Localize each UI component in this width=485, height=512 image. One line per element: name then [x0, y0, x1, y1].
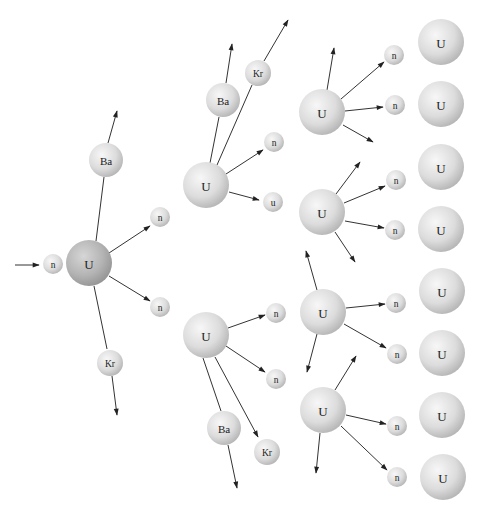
arrow	[341, 426, 387, 470]
krypton-label: Kr	[253, 69, 264, 79]
uranium-label: U	[436, 36, 446, 51]
arrow	[345, 221, 384, 228]
uranium-label: U	[436, 223, 446, 238]
neutron-label: u	[271, 198, 276, 208]
neutron-label: n	[274, 375, 279, 385]
uranium-sphere: U	[300, 387, 346, 433]
uranium-sphere: U	[418, 81, 464, 127]
uranium-sphere: U	[300, 289, 346, 335]
arrow	[109, 226, 150, 253]
krypton-label: Kr	[105, 359, 116, 369]
barium-sphere: Ba	[89, 143, 123, 177]
uranium-label: U	[318, 404, 328, 419]
particles: nUBaKrnnUBaKrnuUnnBaKrUUUUnnnnnnnnUUUUUU…	[43, 19, 466, 500]
neutron-sphere: n	[387, 416, 407, 436]
arrow	[226, 150, 263, 174]
barium-label: Ba	[100, 155, 112, 167]
arrow	[341, 62, 384, 99]
neutron-sphere: u	[263, 192, 283, 212]
arrow	[264, 20, 288, 61]
arrow	[226, 44, 232, 83]
krypton-sphere: Kr	[254, 439, 280, 465]
barium-sphere: Ba	[207, 411, 241, 445]
krypton-sphere: Kr	[245, 60, 271, 86]
arrow	[226, 346, 265, 372]
neutron-label: n	[158, 303, 163, 313]
uranium-label: U	[436, 98, 446, 113]
fission-chain-diagram: nUBaKrnnUBaKrnuUnnBaKrUUUUnnnnnnnnUUUUUU…	[0, 0, 485, 512]
krypton-sphere: Kr	[97, 350, 123, 376]
neutron-sphere: n	[264, 132, 284, 152]
uranium-sphere: U	[418, 206, 464, 252]
arrow	[335, 232, 355, 262]
trajectory-line	[203, 358, 221, 411]
arrow	[344, 186, 385, 203]
neutron-sphere: n	[386, 170, 406, 190]
neutron-sphere: n	[385, 220, 405, 240]
uranium-sphere: U	[419, 392, 465, 438]
uranium-label: U	[201, 329, 211, 344]
uranium-sphere: U	[299, 89, 345, 135]
arrow	[344, 324, 386, 348]
trajectory-line	[210, 117, 219, 163]
krypton-label: Kr	[262, 448, 273, 458]
uranium-sphere: U	[420, 454, 466, 500]
arrow	[343, 125, 373, 142]
uranium-sphere: U	[183, 162, 229, 208]
neutron-sphere: n	[43, 254, 63, 274]
neutron-sphere: n	[385, 95, 405, 115]
arrow	[229, 192, 259, 200]
uranium-label: U	[437, 285, 447, 300]
arrow	[307, 334, 317, 372]
uranium-sphere: U	[419, 268, 465, 314]
arrow	[228, 315, 265, 328]
uranium-label: U	[317, 206, 327, 221]
uranium-label: U	[84, 257, 94, 272]
uranium-sphere: U	[418, 19, 464, 65]
uranium-sphere: U	[183, 312, 229, 358]
arrow	[109, 276, 150, 301]
neutron-label: n	[395, 473, 400, 483]
arrow	[306, 251, 317, 290]
neutron-label: n	[272, 138, 277, 148]
neutron-label: n	[395, 350, 400, 360]
neutron-label: n	[395, 422, 400, 432]
uranium-label: U	[437, 409, 447, 424]
uranium-sphere: U	[418, 144, 464, 190]
arrow	[316, 433, 320, 473]
neutron-label: n	[393, 101, 398, 111]
diagram-canvas: nUBaKrnnUBaKrnuUnnBaKrUUUUnnnnnnnnUUUUUU…	[0, 0, 485, 512]
neutron-label: n	[274, 309, 279, 319]
barium-label: Ba	[217, 95, 229, 107]
uranium-label: U	[201, 179, 211, 194]
neutron-sphere: n	[266, 303, 286, 323]
barium-sphere: Ba	[206, 83, 240, 117]
neutron-sphere: n	[387, 467, 407, 487]
neutron-label: n	[394, 299, 399, 309]
arrow	[346, 304, 385, 308]
trajectory-line	[96, 177, 104, 241]
neutron-label: n	[158, 213, 163, 223]
neutron-sphere: n	[387, 344, 407, 364]
neutron-label: n	[51, 260, 56, 270]
uranium-label: U	[438, 471, 448, 486]
uranium-sphere: U	[66, 240, 112, 286]
uranium-sphere: U	[299, 189, 345, 235]
neutron-sphere: n	[150, 297, 170, 317]
neutron-label: n	[392, 51, 397, 61]
arrow	[346, 415, 386, 424]
neutron-label: n	[393, 226, 398, 236]
uranium-label: U	[437, 347, 447, 362]
neutron-sphere: n	[386, 293, 406, 313]
arrow	[336, 162, 360, 194]
arrow	[108, 111, 117, 143]
arrow	[228, 445, 237, 488]
arrow	[335, 356, 356, 390]
neutron-sphere: n	[150, 207, 170, 227]
neutron-label: n	[394, 176, 399, 186]
uranium-label: U	[317, 106, 327, 121]
arrow	[112, 376, 117, 415]
neutron-sphere: n	[384, 45, 404, 65]
arrow	[345, 107, 383, 111]
neutron-sphere: n	[266, 369, 286, 389]
